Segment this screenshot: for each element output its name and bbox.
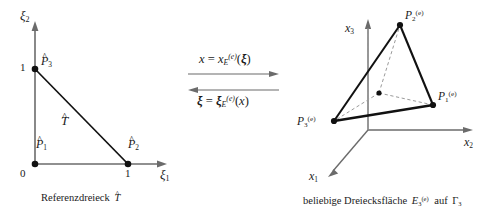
dashed-centroid-to-p2: [379, 25, 400, 93]
x3-axis-label: x3: [345, 22, 354, 36]
xi2-axis-label: ξ2: [20, 9, 30, 24]
triangle-face-edges: [331, 22, 436, 124]
right-caption: beliebige Dreiecksfläche E3(e) auf Γ3: [303, 196, 462, 208]
vertex-label-p3-hat: ^P3: [41, 55, 52, 69]
forward-arrow-head: [269, 71, 279, 77]
x2-axis-arrowhead: [463, 127, 473, 133]
vertex-label-p3e: P3(e): [297, 116, 316, 129]
x1-axis-arrowhead: [328, 169, 338, 177]
left-caption: Referenzdreieck ^T: [41, 193, 120, 204]
x2-axis-label: x2: [464, 136, 473, 150]
xi2-axis-arrowhead: [32, 21, 39, 31]
tick-origin-label: 0: [20, 168, 26, 179]
tick-y-one-label: 1: [20, 62, 26, 73]
xi1-axis-label: ξ1: [160, 168, 170, 183]
vertex-dot-p3e: [331, 118, 337, 124]
vertex-dot-p1e: [430, 102, 436, 108]
x1-axis-label: x1: [309, 170, 318, 184]
edge-p2-p3: [334, 25, 400, 121]
figure-canvas: ξ2 ξ1 0 1 1 ^T ^P3 ^P1 ^P2 Referenzdreie…: [0, 0, 494, 220]
forward-mapping-formula: x = xE(e)(ξ): [199, 53, 251, 67]
left-axes: [32, 21, 167, 167]
backward-mapping-formula: ξ = ξE(e)(x): [197, 95, 249, 109]
x1-axis-line: [333, 130, 368, 171]
reference-region-label: ^T: [61, 114, 68, 127]
vertex-label-p2e: P2(e): [405, 10, 424, 23]
vertex-label-p1-hat: ^P1: [36, 138, 47, 152]
vertex-label-p2-hat: ^P2: [128, 138, 139, 152]
vertex-dot-p1-hat: [32, 161, 39, 168]
edge-p2-p1: [400, 25, 433, 105]
dashed-centroid-to-p1: [379, 93, 433, 105]
backward-arrow-head: [188, 87, 198, 93]
x3-axis-arrowhead: [365, 19, 371, 29]
vertex-dot-p2e: [397, 22, 403, 28]
vertex-dot-p3-hat: [32, 66, 39, 73]
mapping-arrows: [188, 71, 279, 93]
triangle-hypotenuse: [35, 69, 128, 164]
tick-x-one-label: 1: [125, 168, 131, 179]
figure-vector-layer: [0, 0, 494, 220]
construction-dashed-lines: [334, 25, 433, 130]
centroid-dot: [376, 90, 381, 95]
vertex-label-p1e: P1(e): [438, 91, 457, 104]
edge-p3-p1: [334, 105, 433, 121]
